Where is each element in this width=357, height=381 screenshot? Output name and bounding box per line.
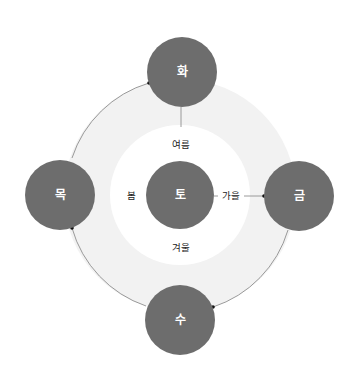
node-fire-label: 화 bbox=[177, 64, 188, 79]
node-metal-label: 금 bbox=[294, 189, 305, 203]
five-elements-diagram: 화 목 토 금 수 여름 봄 가을 겨울 bbox=[0, 0, 357, 381]
season-spring-label: 봄 bbox=[127, 190, 136, 201]
node-wood: 목 bbox=[25, 160, 95, 230]
season-summer-label: 여름 bbox=[172, 139, 190, 150]
node-wood-label: 목 bbox=[55, 188, 66, 202]
node-water-label: 수 bbox=[175, 313, 186, 327]
node-earth-label: 토 bbox=[175, 188, 186, 202]
node-fire: 화 bbox=[147, 37, 217, 107]
node-metal: 금 bbox=[264, 161, 334, 231]
season-autumn-label: 가을 bbox=[222, 190, 240, 201]
season-winter-label: 겨울 bbox=[172, 242, 190, 253]
node-earth: 토 bbox=[146, 161, 214, 229]
node-water: 수 bbox=[145, 285, 215, 355]
